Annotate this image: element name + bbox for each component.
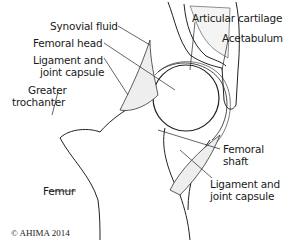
label-greater-trochanter-b: trochanter (12, 96, 65, 108)
label-femoral-shaft-a: Femoral (223, 143, 264, 155)
label-femur: Femur (43, 185, 75, 197)
label-greater-trochanter-a: Greater (28, 84, 67, 96)
label-femoral-shaft-b: shaft (223, 155, 248, 167)
label-articular-cartilage: Articular cartilage (192, 12, 282, 24)
label-synovial-fluid: Synovial fluid (50, 20, 118, 32)
label-ligament-capsule-2a: Ligament and (210, 178, 280, 190)
label-acetabulum: Acetabulum (222, 32, 283, 44)
label-ligament-capsule-1a: Ligament and (33, 54, 103, 66)
label-ligament-capsule-2b: joint capsule (210, 190, 274, 202)
label-ligament-capsule-1b: joint capsule (40, 66, 104, 78)
copyright-text: © AHIMA 2014 (11, 228, 70, 238)
label-femoral-head: Femoral head (33, 37, 102, 49)
